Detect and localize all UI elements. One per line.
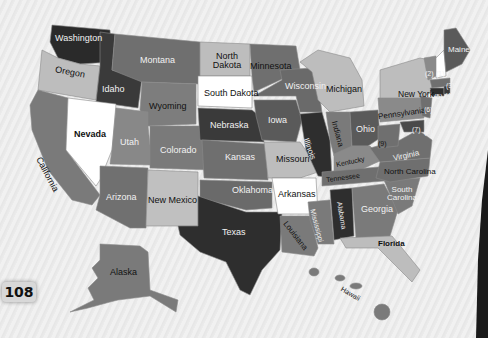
state-hawaii-island-1[interactable] bbox=[309, 268, 319, 276]
label-nevada: Nevada bbox=[74, 130, 106, 139]
label-utah: Utah bbox=[120, 138, 139, 147]
label-ohio: Ohio bbox=[356, 125, 375, 134]
state-hawaii-island-3[interactable] bbox=[350, 283, 362, 289]
label-num-8: (8) bbox=[424, 128, 433, 135]
label-texas: Texas bbox=[222, 228, 246, 237]
label-north-carolina: North Carolina bbox=[384, 168, 436, 176]
label-arizona: Arizona bbox=[106, 193, 137, 202]
label-wisconsin: Wisconsin bbox=[285, 82, 326, 91]
page-edge bbox=[476, 150, 488, 338]
label-num-2: (2) bbox=[425, 70, 434, 77]
page-number: 108 bbox=[2, 282, 36, 302]
label-missouri: Missouri bbox=[276, 155, 310, 164]
label-new-york: New York bbox=[398, 90, 434, 99]
label-washington: Washington bbox=[55, 34, 102, 43]
label-georgia: Georgia bbox=[361, 205, 393, 214]
label-colorado: Colorado bbox=[160, 146, 197, 155]
label-south-carolina: South Carolina bbox=[382, 186, 422, 202]
state-hawaii-island-2[interactable] bbox=[335, 275, 345, 281]
label-minnesota: Minnesota bbox=[250, 62, 292, 71]
label-florida: Florida bbox=[378, 240, 405, 248]
label-north-dakota: North Dakota bbox=[212, 52, 242, 70]
state-hawaii-island-4[interactable] bbox=[374, 304, 390, 320]
label-iowa: Iowa bbox=[268, 116, 287, 125]
label-alaska: Alaska bbox=[110, 268, 137, 277]
label-wyoming: Wyoming bbox=[149, 102, 186, 111]
label-new-mexico: New Mexico bbox=[148, 196, 197, 205]
label-num-9: (9) bbox=[378, 140, 387, 147]
label-nebraska: Nebraska bbox=[210, 121, 249, 130]
state-alaska[interactable] bbox=[70, 244, 178, 312]
label-oklahoma: Oklahoma bbox=[232, 186, 273, 195]
label-michigan: Michigan bbox=[326, 85, 362, 94]
label-maine: Maine bbox=[448, 46, 470, 54]
label-num-3: (3) bbox=[446, 82, 455, 89]
label-kansas: Kansas bbox=[225, 153, 255, 162]
label-arkansas: Arkansas bbox=[278, 190, 316, 199]
label-idaho: Idaho bbox=[102, 85, 125, 94]
label-south-dakota: South Dakota bbox=[204, 89, 259, 98]
label-num-5: (5) bbox=[434, 93, 443, 100]
label-num-4: (4) bbox=[445, 92, 454, 99]
label-num-7: (7) bbox=[412, 126, 421, 133]
label-montana: Montana bbox=[140, 56, 175, 65]
label-num-6: (6) bbox=[424, 106, 433, 113]
label-num-1: (1) bbox=[436, 70, 445, 77]
